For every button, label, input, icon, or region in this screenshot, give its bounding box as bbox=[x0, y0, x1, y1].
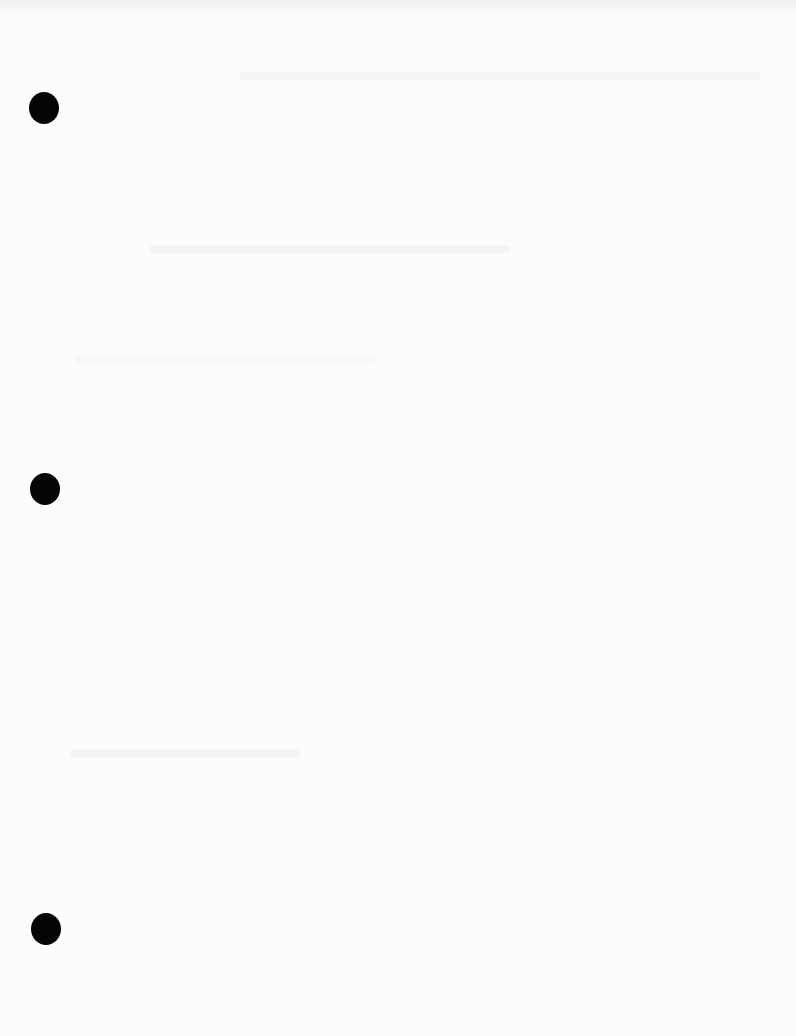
scan-top-edge bbox=[0, 0, 796, 14]
blank-page bbox=[0, 0, 796, 1036]
bleed-through-line bbox=[75, 355, 375, 363]
punch-hole-middle bbox=[30, 473, 60, 505]
bleed-through-line bbox=[150, 245, 510, 253]
bleed-through-line bbox=[70, 750, 300, 758]
punch-hole-top bbox=[29, 92, 59, 124]
bleed-through-line bbox=[240, 72, 760, 80]
punch-hole-bottom bbox=[31, 913, 61, 945]
